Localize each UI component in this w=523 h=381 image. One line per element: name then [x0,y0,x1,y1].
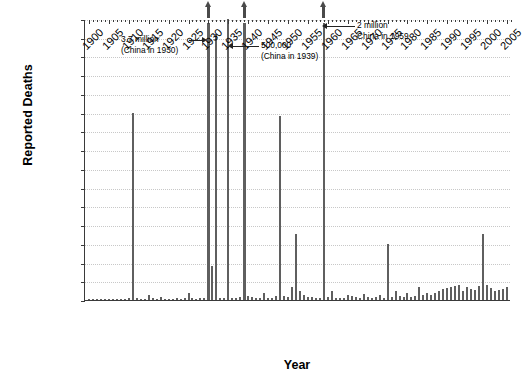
gridline [85,189,510,190]
x-axis-minor-tick [236,20,237,22]
bar [140,299,142,300]
bar [311,297,313,300]
x-axis-minor-tick [324,20,325,22]
x-axis-minor-tick [173,20,174,22]
bar-clipped [243,23,246,300]
annotation-leader-line [233,46,259,47]
bar [403,297,405,300]
bar [251,297,253,300]
x-axis-minor-tick [336,20,337,22]
bar [498,290,500,300]
x-axis-minor-tick [304,20,305,22]
bar [339,298,341,300]
gridline [85,245,510,246]
bar [239,297,241,300]
x-axis-minor-tick [479,20,480,22]
bar [203,298,205,300]
x-axis-minor-tick [264,20,265,22]
bar [315,298,317,300]
bar [307,297,309,300]
y-axis-tick-mark [81,264,85,265]
bar [267,298,269,300]
x-axis-tick-mark [89,20,90,24]
bar [299,291,301,300]
x-axis-minor-tick [471,20,472,22]
bar [108,299,110,300]
bar [160,297,162,300]
bar [371,298,373,300]
bar [116,299,118,300]
clipped-bar-stem [243,6,246,18]
bar [215,34,217,300]
x-axis-minor-tick [157,20,158,22]
bar [259,298,261,300]
bar [172,299,174,300]
gridline [85,114,510,115]
x-axis-tick-mark [467,20,468,24]
bar [426,293,428,300]
y-axis-title: Reported Deaths [21,35,35,195]
bar [168,299,170,300]
x-axis-minor-tick [292,20,293,22]
x-axis-minor-tick [141,20,142,22]
gridline [85,95,510,96]
x-axis-tick-mark [169,20,170,24]
x-axis-minor-tick [113,20,114,22]
x-axis-minor-tick [475,20,476,22]
x-axis-minor-tick [185,20,186,22]
bar [319,298,321,300]
x-axis-tick-mark [447,20,448,24]
x-axis-tick-mark [189,20,190,24]
annotation-line-1: 2 million [357,20,388,30]
bar [184,298,186,300]
bar [367,297,369,300]
y-axis-tick-mark [81,301,85,302]
bar [148,295,150,300]
bar [331,291,333,300]
chart-annotation: 500,000(China in 1939) [261,40,318,62]
bar [104,299,106,300]
bar [255,298,257,300]
x-axis-minor-tick [93,20,94,22]
bar [199,298,201,300]
bar [359,298,361,300]
bar [343,298,345,300]
cropped-caption [0,374,523,381]
bar [442,289,444,300]
annotation-arrowhead-icon [202,37,207,43]
x-axis-minor-tick [153,20,154,22]
bar [327,297,329,300]
y-axis-tick-mark [81,170,85,171]
bar [446,288,448,300]
x-axis-minor-tick [220,20,221,22]
x-axis-minor-tick [352,20,353,22]
x-axis-minor-tick [252,20,253,22]
x-axis-minor-tick [344,20,345,22]
bar [287,297,289,300]
bar [112,299,114,300]
x-axis-minor-tick [284,20,285,22]
bar [482,234,484,300]
chart-annotation: 2 millionChina in 1959 [357,20,409,42]
bar [231,298,233,300]
x-axis-minor-tick [181,20,182,22]
bar [454,286,456,300]
bar [144,299,146,300]
gridline [85,151,510,152]
bar [283,296,285,300]
bar [96,299,98,300]
clipped-bar-arrow-icon [320,1,326,7]
bar [335,298,337,300]
gridline [85,226,510,227]
clipped-bar-stem [207,6,210,18]
plot-area: 010,00020,00030,00040,00050,00060,00070,… [84,20,510,301]
annotation-line-1: 500,000 [261,40,291,50]
bar [391,297,393,300]
bar [263,293,265,300]
bar [247,296,249,300]
y-axis-tick-mark [81,132,85,133]
x-axis-tick-mark [248,20,249,24]
x-axis-minor-tick [503,20,504,22]
annotation-line-2: (China in 1930) [121,45,178,56]
bar [434,293,436,300]
